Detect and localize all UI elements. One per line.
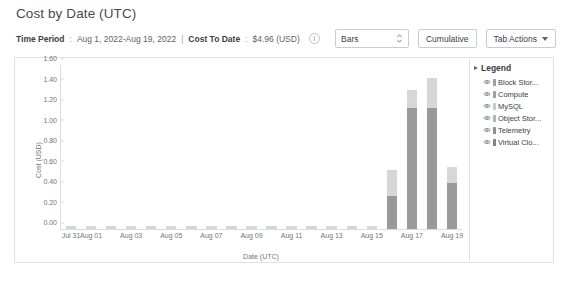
bar[interactable] (206, 226, 216, 229)
bar[interactable] (266, 226, 276, 229)
legend-item-label: Virtual Clo... (498, 138, 539, 147)
y-axis-tick: 1.20 (43, 96, 61, 103)
legend-panel: Legend Block Stor...ComputeMySQLObject S… (469, 58, 553, 262)
bar-segment (387, 170, 397, 197)
bar[interactable] (86, 226, 96, 229)
bar-segment (387, 196, 397, 229)
x-axis-tick: Aug 01 (80, 232, 102, 239)
eye-icon[interactable] (483, 115, 491, 121)
legend-item-label: Object Stor... (498, 114, 541, 123)
cumulative-label: Cumulative (426, 34, 469, 44)
chart-type-value: Bars (341, 34, 358, 44)
legend-item[interactable]: Object Stor... (474, 112, 553, 124)
chevron-updown-icon (396, 33, 403, 44)
legend-swatch (493, 127, 496, 134)
bar[interactable] (347, 226, 357, 229)
legend-item[interactable]: Telemetry (474, 124, 553, 136)
bars-layer (61, 65, 462, 229)
bar[interactable] (226, 226, 236, 229)
legend-items: Block Stor...ComputeMySQLObject Stor...T… (474, 76, 553, 148)
bar-segment (266, 226, 276, 229)
chevron-right-icon (474, 66, 478, 70)
plot-area: 0.000.200.400.600.801.001.201.401.60 Jul… (60, 65, 462, 230)
cost-by-date-panel: Cost by Date (UTC) Time Period : Aug 1, … (0, 0, 568, 283)
cost-to-date-colon: : (244, 34, 248, 44)
y-axis-tick: 0.60 (43, 157, 61, 164)
bar-segment (447, 167, 457, 183)
page-title: Cost by Date (UTC) (16, 6, 136, 21)
bar-segment (206, 226, 216, 229)
bar-segment (306, 226, 316, 229)
legend-title: Legend (481, 63, 511, 73)
legend-item-label: MySQL (498, 102, 523, 111)
cost-to-date-label: Cost To Date (188, 34, 240, 44)
legend-swatch (493, 103, 496, 110)
bar[interactable] (427, 78, 437, 229)
bar[interactable] (286, 226, 296, 229)
time-period-summary: Time Period : Aug 1, 2022-Aug 19, 2022 |… (16, 33, 320, 44)
bar[interactable] (126, 226, 136, 229)
legend-swatch (493, 139, 496, 146)
bar-segment (286, 226, 296, 229)
legend-item[interactable]: Block Stor... (474, 76, 553, 88)
tab-actions-button[interactable]: Tab Actions (486, 29, 556, 48)
legend-header[interactable]: Legend (474, 63, 553, 73)
bar-segment (427, 108, 437, 229)
y-axis-tick: 1.00 (43, 116, 61, 123)
bar[interactable] (447, 166, 457, 229)
x-axis-tick: Aug 19 (441, 232, 463, 239)
plot-wrapper: Cost (USD) 0.000.200.400.600.801.001.201… (15, 58, 470, 262)
bar-segment (326, 226, 336, 229)
legend-item[interactable]: Virtual Clo... (474, 136, 553, 148)
bar[interactable] (326, 226, 336, 229)
eye-icon[interactable] (483, 79, 491, 85)
tab-actions-label: Tab Actions (494, 34, 537, 44)
bar-segment (146, 226, 156, 229)
bar[interactable] (186, 226, 196, 229)
x-axis-tick: Aug 03 (120, 232, 142, 239)
eye-icon[interactable] (483, 139, 491, 145)
bar-segment (166, 226, 176, 229)
bar[interactable] (407, 90, 417, 229)
chart-type-select[interactable]: Bars (335, 29, 409, 48)
eye-icon[interactable] (483, 103, 491, 109)
bar-segment (347, 226, 357, 229)
time-period-value: Aug 1, 2022-Aug 19, 2022 (77, 34, 176, 44)
legend-swatch (493, 91, 496, 98)
cumulative-button[interactable]: Cumulative (418, 29, 477, 48)
bar[interactable] (66, 226, 76, 229)
time-period-colon: : (69, 34, 73, 44)
legend-item-label: Telemetry (498, 126, 531, 135)
y-axis-tick: 0.00 (43, 219, 61, 226)
x-axis-tick: Aug 11 (281, 232, 303, 239)
x-axis-tick: Aug 15 (361, 232, 383, 239)
x-axis-tick: Aug 17 (401, 232, 423, 239)
legend-item-label: Block Stor... (498, 78, 538, 87)
bar[interactable] (166, 226, 176, 229)
y-axis-title: Cost (USD) (35, 142, 42, 178)
y-axis-tick: 0.20 (43, 198, 61, 205)
bar[interactable] (367, 226, 377, 229)
chevron-down-icon (542, 37, 548, 41)
meta-divider: | (180, 34, 184, 44)
bar[interactable] (106, 226, 116, 229)
y-axis-tick: 0.80 (43, 137, 61, 144)
bar-segment (106, 226, 116, 229)
bar[interactable] (306, 226, 316, 229)
x-axis-tick: Aug 07 (200, 232, 222, 239)
eye-icon[interactable] (483, 127, 491, 133)
bar-segment (86, 226, 96, 229)
chart-card: Cost (USD) 0.000.200.400.600.801.001.201… (14, 57, 554, 263)
bar[interactable] (387, 170, 397, 229)
time-period-label: Time Period (16, 34, 65, 44)
legend-item[interactable]: MySQL (474, 100, 553, 112)
legend-item[interactable]: Compute (474, 88, 553, 100)
x-axis-tick: Aug 09 (240, 232, 262, 239)
x-axis-title: Date (UTC) (60, 253, 462, 260)
bar[interactable] (246, 226, 256, 229)
bar-segment (246, 226, 256, 229)
eye-icon[interactable] (483, 91, 491, 97)
y-axis-tick: 1.40 (43, 75, 61, 82)
bar[interactable] (146, 226, 156, 229)
info-icon[interactable]: i (309, 33, 320, 44)
